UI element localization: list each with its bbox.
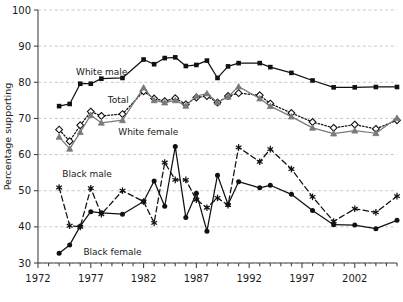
y-tick-label: 70 xyxy=(18,113,31,124)
series-annotation: Black female xyxy=(83,247,142,257)
series-black-female xyxy=(57,144,400,256)
x-tick-label: 1987 xyxy=(184,273,209,284)
y-axis-ticks: 30405060708090100 xyxy=(12,5,38,269)
y-tick-label: 30 xyxy=(18,258,31,269)
series-markers xyxy=(56,84,400,152)
y-tick-label: 60 xyxy=(18,149,31,160)
series-white-female xyxy=(56,84,400,152)
data-series xyxy=(56,55,401,256)
x-tick-label: 1982 xyxy=(131,273,156,284)
x-tick-label: 1977 xyxy=(78,273,103,284)
series-annotation: Black male xyxy=(62,169,112,179)
y-tick-label: 40 xyxy=(18,221,31,232)
x-tick-label: 1997 xyxy=(289,273,314,284)
x-tick-label: 1972 xyxy=(25,273,50,284)
y-tick-label: 100 xyxy=(12,5,31,16)
series-markers xyxy=(56,144,400,230)
y-axis-label: Percentage supporting xyxy=(2,83,13,191)
y-axis-title: Percentage supporting xyxy=(2,83,13,191)
series-line xyxy=(59,147,397,254)
series-line xyxy=(59,147,397,227)
series-annotation: Total xyxy=(107,95,129,105)
x-tick-label: 1992 xyxy=(236,273,261,284)
x-axis-ticks: 1972197719821987199219972002 xyxy=(25,263,397,284)
series-annotation: White male xyxy=(76,67,128,77)
series-black-male xyxy=(56,144,400,230)
x-tick-label: 2002 xyxy=(342,273,367,284)
y-tick-label: 80 xyxy=(18,77,31,88)
percentage-supporting-line-chart: 30405060708090100 1972197719821987199219… xyxy=(0,0,403,302)
chart-container: 30405060708090100 1972197719821987199219… xyxy=(0,0,403,302)
y-tick-label: 50 xyxy=(18,185,31,196)
series-markers xyxy=(57,144,400,256)
y-tick-label: 90 xyxy=(18,41,31,52)
series-annotation: White female xyxy=(118,127,179,137)
